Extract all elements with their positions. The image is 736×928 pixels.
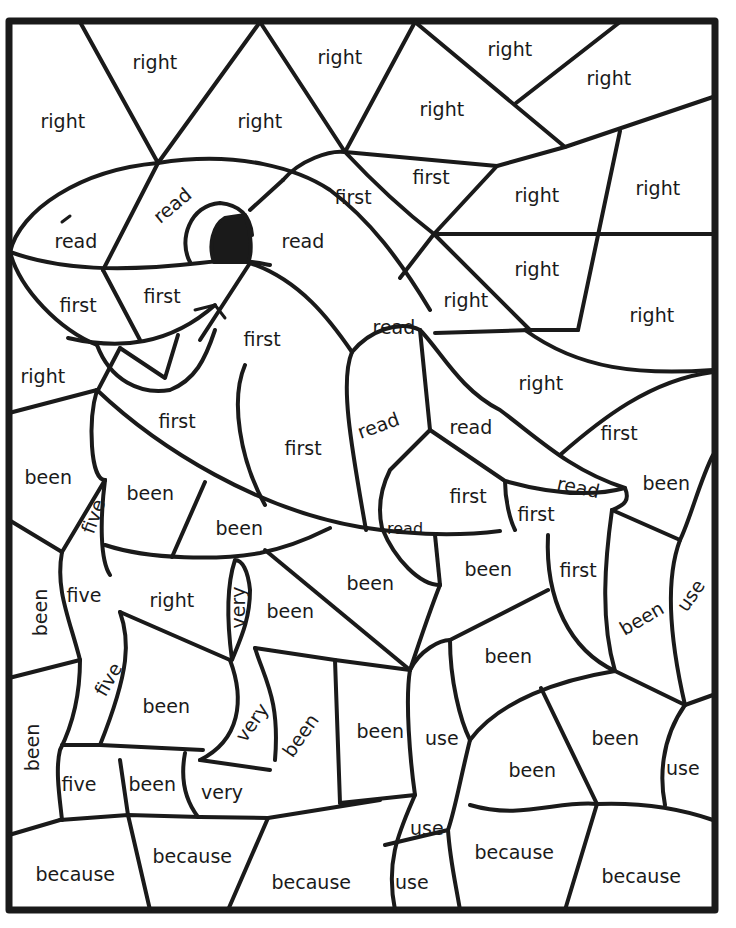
region-label-been[interactable]: been — [267, 602, 314, 621]
region-label-because[interactable]: because — [153, 847, 232, 866]
region-label-first[interactable]: first — [601, 424, 638, 443]
region-label-right[interactable]: right — [515, 260, 560, 279]
region-label-use[interactable]: use — [425, 729, 459, 748]
region-label-first[interactable]: first — [560, 561, 597, 580]
region-label-right[interactable]: right — [444, 291, 489, 310]
region-label-right[interactable]: right — [150, 591, 195, 610]
region-label-first[interactable]: first — [285, 439, 322, 458]
region-label-because[interactable]: because — [36, 865, 115, 884]
coloring-worksheet: rightrightrightrightrightrightrightreadr… — [0, 0, 736, 928]
region-label-been[interactable]: been — [347, 574, 394, 593]
region-label-been[interactable]: been — [509, 761, 556, 780]
region-label-right[interactable]: right — [587, 69, 632, 88]
region-label-first[interactable]: first — [159, 412, 196, 431]
region-label-use[interactable]: use — [666, 759, 700, 778]
region-label-right[interactable]: right — [519, 374, 564, 393]
region-label-because[interactable]: because — [602, 867, 681, 886]
region-label-first[interactable]: first — [144, 287, 181, 306]
region-label-because[interactable]: because — [272, 873, 351, 892]
region-label-use[interactable]: use — [395, 873, 429, 892]
region-label-right[interactable]: right — [318, 48, 363, 67]
region-label-been[interactable]: been — [127, 484, 174, 503]
region-label-very[interactable]: very — [201, 783, 243, 802]
region-label-read[interactable]: read — [450, 418, 493, 437]
region-label-right[interactable]: right — [21, 367, 66, 386]
region-label-been[interactable]: been — [592, 729, 639, 748]
region-label-read[interactable]: read — [373, 318, 416, 337]
region-label-first[interactable]: first — [60, 296, 97, 315]
region-label-right[interactable]: right — [420, 100, 465, 119]
region-label-been[interactable]: been — [129, 775, 176, 794]
region-label-read[interactable]: read — [55, 232, 98, 251]
region-label-right[interactable]: right — [630, 306, 675, 325]
region-label-been[interactable]: been — [465, 560, 512, 579]
region-label-been[interactable]: been — [216, 519, 263, 538]
region-label-first[interactable]: first — [335, 188, 372, 207]
region-label-because[interactable]: because — [475, 843, 554, 862]
region-label-read[interactable]: read — [282, 232, 325, 251]
region-label-right[interactable]: right — [488, 40, 533, 59]
region-label-been[interactable]: been — [485, 647, 532, 666]
region-label-been[interactable]: been — [143, 697, 190, 716]
region-label-been[interactable]: been — [357, 722, 404, 741]
region-label-right[interactable]: right — [636, 179, 681, 198]
outline-drawing — [0, 0, 736, 928]
region-label-right[interactable]: right — [133, 53, 178, 72]
region-label-first[interactable]: first — [518, 505, 555, 524]
region-label-been[interactable]: been — [31, 588, 50, 635]
region-label-right[interactable]: right — [238, 112, 283, 131]
region-label-first[interactable]: first — [413, 168, 450, 187]
region-label-been[interactable]: been — [25, 468, 72, 487]
region-label-very[interactable]: very — [229, 586, 248, 628]
region-label-right[interactable]: right — [41, 112, 86, 131]
region-label-first[interactable]: first — [244, 330, 281, 349]
region-label-been[interactable]: been — [23, 723, 42, 770]
region-label-right[interactable]: right — [515, 186, 560, 205]
region-label-first[interactable]: first — [450, 487, 487, 506]
region-label-read[interactable]: read — [387, 521, 423, 537]
region-label-five[interactable]: five — [62, 775, 97, 794]
region-label-use[interactable]: use — [410, 819, 444, 838]
region-label-five[interactable]: five — [67, 586, 102, 605]
region-label-been[interactable]: been — [643, 474, 690, 493]
